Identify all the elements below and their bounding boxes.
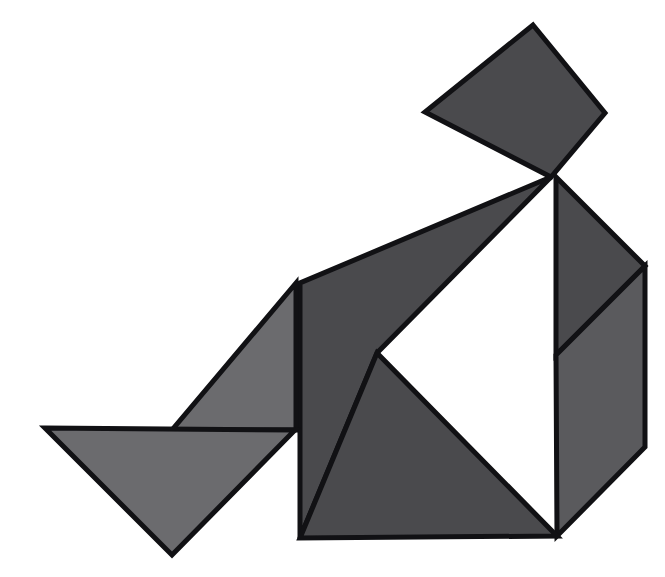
tangram-stage	[0, 0, 665, 577]
tangram-canvas	[0, 0, 665, 577]
